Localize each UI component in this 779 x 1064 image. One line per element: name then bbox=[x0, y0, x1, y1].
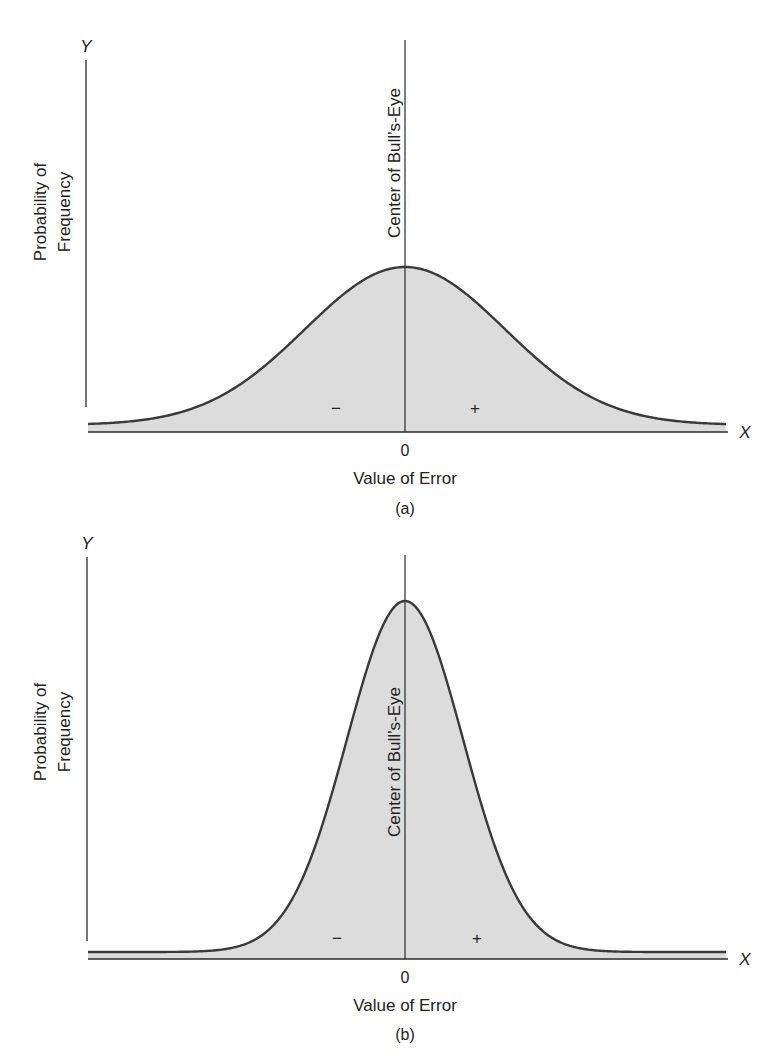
zero-tick-a: 0 bbox=[401, 442, 410, 459]
y-axis-label-b-line2: Frequency bbox=[55, 691, 74, 772]
y-axis-label-b-line1: Probability of bbox=[31, 683, 50, 782]
y-axis-label-a-line1: Probability of bbox=[31, 163, 50, 262]
distribution-area-b bbox=[88, 601, 726, 959]
x-axis-label-a: Value of Error bbox=[353, 469, 457, 488]
center-label-a: Center of Bull’s-Eye bbox=[385, 88, 404, 238]
minus-sign-b: − bbox=[332, 929, 342, 948]
minus-sign-a: − bbox=[331, 399, 341, 418]
caption-b: (b) bbox=[395, 1026, 415, 1043]
y-axis-letter-a: Y bbox=[80, 37, 93, 56]
plus-sign-a: + bbox=[470, 399, 480, 418]
x-axis-letter-b: X bbox=[738, 950, 751, 969]
figure: Y X Probability of Frequency Center of B… bbox=[0, 0, 779, 1064]
panel-a: Y X Probability of Frequency Center of B… bbox=[31, 37, 751, 517]
x-axis-label-b: Value of Error bbox=[353, 996, 457, 1015]
distribution-area-a bbox=[88, 267, 726, 432]
x-axis-letter-a: X bbox=[738, 423, 751, 442]
panel-b: Y X Probability of Frequency Center of B… bbox=[31, 534, 751, 1043]
y-axis-label-a-line2: Frequency bbox=[55, 171, 74, 252]
center-label-b: Center of Bull’s-Eye bbox=[385, 687, 404, 837]
plus-sign-b: + bbox=[472, 929, 482, 948]
y-axis-letter-b: Y bbox=[81, 534, 94, 553]
caption-a: (a) bbox=[395, 500, 415, 517]
zero-tick-b: 0 bbox=[401, 969, 410, 986]
